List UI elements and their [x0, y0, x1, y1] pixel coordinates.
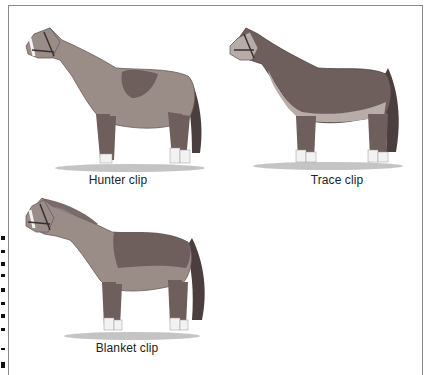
cropped-side-label — [0, 236, 6, 368]
panel-blanket-clip — [22, 192, 212, 340]
horse-trace-clip-illustration — [228, 20, 418, 170]
panel-hunter-clip — [20, 18, 220, 173]
panel-trace-clip — [228, 20, 418, 170]
caption-hunter-clip: Hunter clip — [89, 173, 147, 187]
horse-hunter-clip-illustration — [20, 18, 220, 173]
caption-trace-clip: Trace clip — [311, 173, 364, 187]
caption-blanket-clip: Blanket clip — [96, 341, 159, 355]
horse-blanket-clip-illustration — [22, 192, 212, 340]
